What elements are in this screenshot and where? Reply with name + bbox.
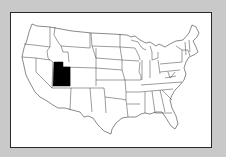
us-outline bbox=[22, 24, 199, 134]
us-map bbox=[0, 0, 226, 157]
